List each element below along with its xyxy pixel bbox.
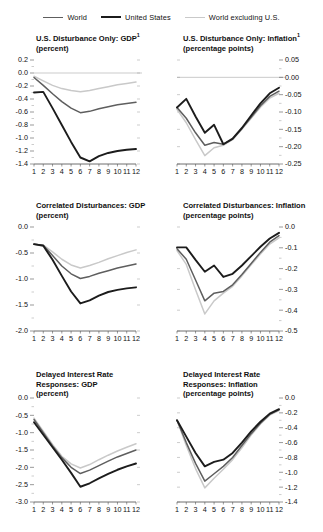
y-tick-label: -1.2 — [285, 484, 297, 491]
y-tick-label: 0.05 — [285, 56, 299, 63]
y-tick-label: -0.5 — [0, 249, 28, 256]
panel-title-us-disturbance-inflation: U.S. Disturbance Only: Inflation1(percen… — [183, 34, 300, 53]
legend-swatch-world-excluding-us — [185, 17, 205, 18]
legend-label-world: World — [67, 13, 87, 22]
chart-legend: World United States World excluding U.S. — [0, 0, 323, 30]
y-tick-label: -0.2 — [285, 265, 297, 272]
y-tick-label: -0.10 — [285, 108, 301, 115]
legend-label-world-excluding-us: World excluding U.S. — [209, 13, 280, 22]
series-line-united-states — [34, 92, 136, 162]
chart-panel-delayed-interest-gdp: Delayed Interest RateResponses: GDP(perc… — [0, 362, 161, 532]
y-tick-label: -0.5 — [285, 327, 297, 334]
y-tick-label: -2.0 — [0, 464, 28, 471]
panel-title-correlated-disturbances-inflation: Correlated Disturbances: Inflation(perce… — [183, 201, 305, 220]
y-tick-label: -0.2 — [285, 409, 297, 416]
chart-panel-delayed-interest-inflation: Delayed Interest RateResponses: Inflatio… — [161, 362, 323, 532]
y-tick-label: -2.5 — [0, 481, 28, 488]
y-tick-label: -1.4 — [0, 160, 28, 167]
y-tick-label: 0.0 — [0, 394, 28, 401]
y-tick-label: -1.0 — [0, 134, 28, 141]
y-tick-label: -0.2 — [0, 82, 28, 89]
x-tick-label: 12 — [130, 335, 142, 342]
y-tick-label: -0.6 — [0, 108, 28, 115]
x-tick-label: 12 — [273, 168, 285, 175]
y-tick-label: -0.25 — [285, 160, 301, 167]
x-tick-label: 12 — [273, 506, 285, 513]
y-tick-label: 0.00 — [285, 74, 299, 81]
chart-panel-us-disturbance-gdp: U.S. Disturbance Only: GDP1(percent)0.20… — [0, 30, 161, 197]
panel-title-correlated-disturbances-gdp: Correlated Disturbances: GDP(percent) — [36, 201, 145, 220]
series-line-united-states — [177, 233, 279, 277]
plot-area-correlated-disturbances-gdp — [34, 227, 144, 333]
series-line-united-states — [177, 88, 279, 145]
y-tick-label: -0.4 — [0, 95, 28, 102]
y-tick-label: -3.0 — [0, 498, 28, 505]
y-tick-label: -0.5 — [0, 412, 28, 419]
y-tick-label: 0.0 — [0, 69, 28, 76]
y-tick-label: -1.5 — [0, 446, 28, 453]
legend-item-world-excluding-us: World excluding U.S. — [185, 13, 280, 22]
series-line-united-states — [34, 422, 136, 486]
panel-title-us-disturbance-gdp: U.S. Disturbance Only: GDP1(percent) — [36, 34, 140, 53]
panel-title-delayed-interest-inflation: Delayed Interest RateResponses: Inflatio… — [183, 370, 260, 399]
panel-title-delayed-interest-gdp: Delayed Interest RateResponses: GDP(perc… — [36, 370, 113, 399]
y-tick-label: -1.2 — [0, 147, 28, 154]
chart-panel-grid: U.S. Disturbance Only: GDP1(percent)0.20… — [0, 30, 323, 532]
y-tick-label: -0.15 — [285, 126, 301, 133]
plot-area-us-disturbance-gdp — [34, 60, 144, 166]
y-tick-label: -1.0 — [285, 469, 297, 476]
chart-panel-correlated-disturbances-gdp: Correlated Disturbances: GDP(percent)0.0… — [0, 197, 161, 362]
series-line-world — [177, 236, 279, 301]
plot-area-delayed-interest-gdp — [34, 398, 144, 504]
y-tick-label: 0.0 — [285, 223, 295, 230]
y-tick-label: -0.8 — [285, 454, 297, 461]
chart-panel-us-disturbance-inflation: U.S. Disturbance Only: Inflation1(percen… — [161, 30, 323, 197]
series-line-world — [34, 78, 136, 113]
y-tick-label: -2.0 — [0, 327, 28, 334]
legend-label-united-states: United States — [125, 13, 171, 22]
y-tick-label: -0.20 — [285, 143, 301, 150]
series-line-world-excluding-us — [177, 411, 279, 488]
y-tick-label: -0.6 — [285, 439, 297, 446]
y-tick-label: -0.1 — [285, 244, 297, 251]
y-tick-label: 0.2 — [0, 56, 28, 63]
plot-area-delayed-interest-inflation — [177, 398, 287, 504]
y-tick-label: 0.0 — [0, 223, 28, 230]
x-tick-label: 12 — [273, 335, 285, 342]
legend-swatch-world — [43, 17, 63, 18]
legend-item-world: World — [43, 13, 87, 22]
plot-area-correlated-disturbances-inflation — [177, 227, 287, 333]
y-tick-label: -0.05 — [285, 91, 301, 98]
plot-area-us-disturbance-inflation — [177, 60, 287, 166]
y-tick-label: -0.4 — [285, 307, 297, 314]
y-tick-label: -1.5 — [0, 301, 28, 308]
y-tick-label: -1.0 — [0, 275, 28, 282]
y-tick-label: -0.4 — [285, 424, 297, 431]
chart-panel-correlated-disturbances-inflation: Correlated Disturbances: Inflation(perce… — [161, 197, 323, 362]
y-tick-label: -0.3 — [285, 286, 297, 293]
y-tick-label: 0.0 — [285, 394, 295, 401]
series-line-world — [34, 419, 136, 473]
legend-item-united-states: United States — [101, 13, 171, 22]
legend-swatch-united-states — [101, 16, 121, 18]
x-tick-label: 12 — [130, 168, 142, 175]
y-tick-label: -1.4 — [285, 498, 297, 505]
x-tick-label: 12 — [130, 506, 142, 513]
y-tick-label: -0.8 — [0, 121, 28, 128]
y-tick-label: -1.0 — [0, 429, 28, 436]
series-line-world-excluding-us — [34, 76, 136, 92]
